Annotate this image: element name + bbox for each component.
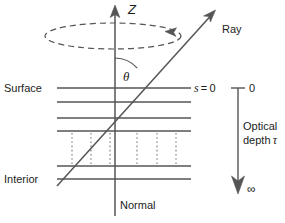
ray-arrowhead-icon xyxy=(204,10,216,22)
theta-arc xyxy=(115,58,137,68)
path-length-value: = 0 xyxy=(199,82,216,94)
z-axis-label: Z xyxy=(128,3,136,18)
interior-label: Interior xyxy=(4,173,38,186)
surface-label: Surface xyxy=(4,82,42,95)
diagram-canvas xyxy=(0,0,285,223)
tau-symbol: τ xyxy=(273,133,277,147)
depth-word: depth xyxy=(243,134,273,146)
optical-depth-label-line1: Optical xyxy=(243,120,277,133)
depth-infinity-label: ∞ xyxy=(247,183,256,197)
dotted-columns-group xyxy=(72,133,176,164)
optical-depth-diagram: Z Ray θ Surface Interior Normal s = 0 0 … xyxy=(0,0,285,223)
azimuth-ellipse-group xyxy=(45,23,181,49)
optical-depth-label-line2: depth τ xyxy=(243,134,277,148)
normal-label: Normal xyxy=(120,199,155,212)
azimuth-ellipse xyxy=(45,23,181,49)
z-axis-group xyxy=(110,5,120,216)
layer-lines-group xyxy=(57,88,191,179)
ray-label: Ray xyxy=(222,23,242,36)
path-length-origin-label: s = 0 xyxy=(194,82,216,96)
ray-line xyxy=(57,16,211,186)
ray-group xyxy=(57,10,216,186)
depth-zero-label: 0 xyxy=(249,82,255,95)
theta-angle-label: θ xyxy=(123,70,129,85)
